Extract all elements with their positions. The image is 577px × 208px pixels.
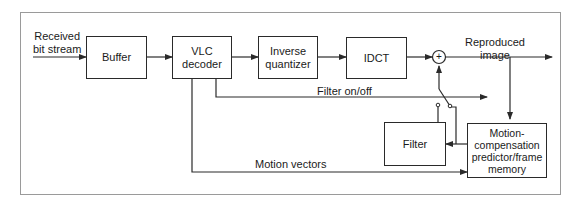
input-label: Received bit stream bbox=[33, 30, 81, 56]
iq-label-line1: Inverse bbox=[265, 45, 310, 58]
idct-block: IDCT bbox=[346, 37, 407, 79]
adder-symbol: + bbox=[436, 50, 442, 64]
mc-label-line2: compensation bbox=[472, 139, 543, 151]
motion-vectors-label: Motion vectors bbox=[255, 158, 327, 171]
mc-label-line1: Motion- bbox=[472, 127, 543, 139]
input-label-line1: Received bbox=[33, 30, 81, 43]
vlc-label-line2: decoder bbox=[182, 58, 222, 71]
filter-on-off-label: Filter on/off bbox=[317, 85, 372, 98]
vlc-label-line1: VLC bbox=[182, 45, 222, 58]
buffer-block: Buffer bbox=[86, 36, 147, 79]
line-bypass bbox=[450, 107, 456, 144]
mc-label-line3: predictor/frame bbox=[472, 151, 543, 163]
iq-label-line2: quantizer bbox=[265, 58, 310, 71]
output-label-line1: Reproduced bbox=[465, 36, 525, 49]
input-label-line2: bit stream bbox=[33, 43, 81, 56]
filter-label: Filter bbox=[403, 138, 427, 151]
switch-contact-filter bbox=[436, 103, 440, 107]
idct-label: IDCT bbox=[364, 52, 390, 65]
vlc-decoder-block: VLC decoder bbox=[172, 36, 232, 79]
motion-compensation-block: Motion- compensation predictor/frame mem… bbox=[467, 123, 547, 178]
output-label-line2: image bbox=[465, 49, 525, 62]
mc-label-line4: memory bbox=[472, 163, 543, 175]
buffer-label: Buffer bbox=[102, 51, 131, 64]
output-label: Reproduced image bbox=[465, 36, 525, 62]
filter-block: Filter bbox=[384, 122, 446, 166]
switch-contact-bypass bbox=[448, 104, 452, 108]
inverse-quantizer-block: Inverse quantizer bbox=[258, 36, 318, 79]
